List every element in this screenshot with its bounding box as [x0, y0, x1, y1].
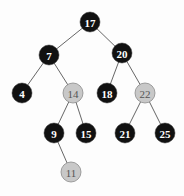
node-label: 4 [19, 88, 25, 100]
node-label: 20 [117, 48, 129, 60]
node-label: 22 [140, 88, 151, 100]
node-label: 7 [46, 50, 52, 62]
tree-node-9: 9 [44, 123, 64, 143]
tree-node-11: 11 [61, 162, 81, 182]
node-label: 18 [102, 88, 114, 100]
tree-nodes: 177204141822915212511 [12, 12, 175, 182]
tree-node-18: 18 [97, 83, 117, 103]
tree-node-17: 17 [80, 12, 100, 32]
node-label: 14 [68, 88, 80, 100]
red-black-tree-diagram: 177204141822915212511 [0, 0, 184, 196]
tree-node-7: 7 [39, 45, 59, 65]
node-label: 11 [66, 167, 77, 179]
tree-node-15: 15 [76, 123, 96, 143]
node-label: 17 [85, 17, 97, 29]
tree-node-22: 22 [135, 83, 155, 103]
node-label: 25 [160, 128, 172, 140]
tree-node-4: 4 [12, 83, 32, 103]
tree-node-14: 14 [63, 83, 83, 103]
node-label: 15 [81, 128, 93, 140]
node-label: 9 [51, 128, 57, 140]
tree-node-20: 20 [112, 43, 132, 63]
tree-node-25: 25 [155, 123, 175, 143]
tree-node-21: 21 [115, 123, 135, 143]
node-label: 21 [120, 128, 131, 140]
